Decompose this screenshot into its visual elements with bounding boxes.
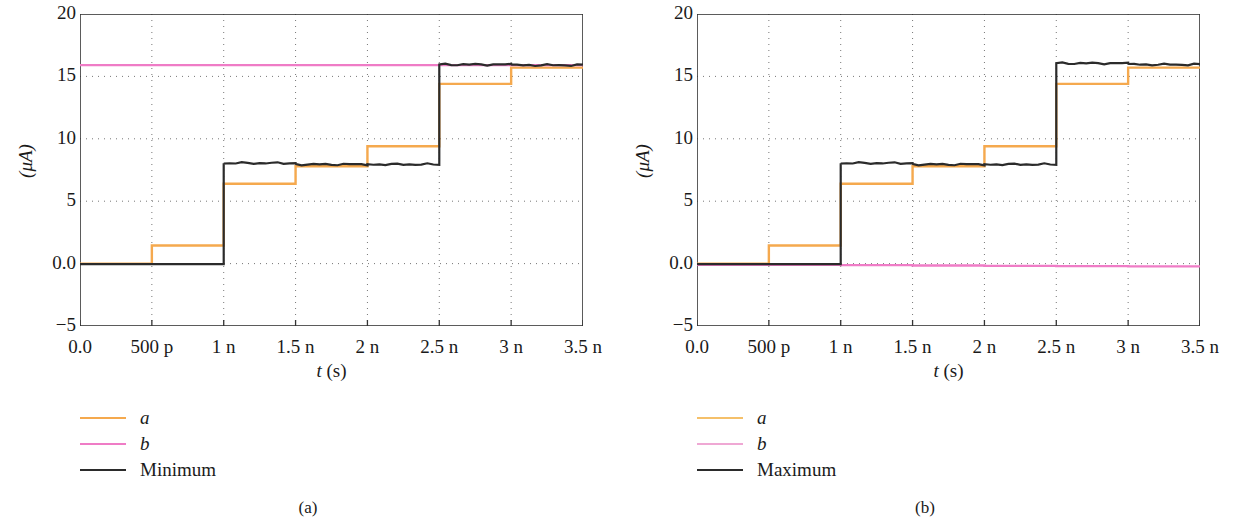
x-axis-label-var-b: t	[933, 360, 938, 381]
x-tick-label: 3.5 n	[564, 336, 602, 358]
panel-a: (μA) 20151050.0−5 0.0500 p1 n1.5 n2 n2.5…	[0, 0, 616, 529]
plot-svg-a	[80, 14, 583, 326]
y-axis-ticks-b: 20151050.0−5	[637, 0, 693, 340]
series-line-minimum	[80, 64, 583, 265]
legend-swatch-icon	[80, 443, 126, 445]
x-axis-ticks-a: 0.0500 p1 n1.5 n2 n2.5 n3 n3.5 n	[0, 330, 616, 360]
x-tick-label: 1.5 n	[277, 336, 315, 358]
legend-a: abMinimum	[80, 405, 480, 483]
x-tick-label: 2 n	[973, 336, 997, 358]
y-tick-label: 20	[28, 3, 76, 22]
x-axis-label-unit-b: (s)	[943, 360, 963, 381]
x-tick-label: 1 n	[829, 336, 853, 358]
legend-item[interactable]: Minimum	[80, 457, 480, 483]
x-tick-label: 2.5 n	[420, 336, 458, 358]
caption-a: (a)	[0, 498, 616, 518]
x-tick-label: 3.5 n	[1181, 336, 1219, 358]
legend-label: Maximum	[757, 459, 836, 481]
legend-swatch-icon	[697, 443, 743, 445]
plot-frame	[80, 14, 583, 326]
plot-svg-b	[697, 14, 1200, 326]
legend-item[interactable]: b	[697, 431, 1097, 457]
y-tick-label: 10	[28, 128, 76, 147]
legend-label: a	[757, 407, 767, 429]
x-tick-label: 2.5 n	[1037, 336, 1075, 358]
legend-label: Minimum	[140, 459, 216, 481]
legend-label: a	[140, 407, 150, 429]
legend-item[interactable]: a	[697, 405, 1097, 431]
y-tick-label: 10	[645, 128, 693, 147]
x-axis-label-b: t (s)	[697, 360, 1200, 382]
panel-b: (μA) 20151050.0−5 0.0500 p1 n1.5 n2 n2.5…	[617, 0, 1233, 529]
legend-swatch-icon	[697, 417, 743, 419]
x-tick-label: 0.0	[68, 336, 92, 358]
legend-swatch-icon	[80, 469, 126, 471]
figure-two-panel-chart: (μA) 20151050.0−5 0.0500 p1 n1.5 n2 n2.5…	[0, 0, 1233, 529]
x-tick-label: 1 n	[212, 336, 236, 358]
series-line-maximum	[697, 62, 1200, 264]
caption-b: (b)	[617, 498, 1233, 518]
x-tick-label: 0.0	[685, 336, 709, 358]
x-axis-ticks-b: 0.0500 p1 n1.5 n2 n2.5 n3 n3.5 n	[617, 330, 1233, 360]
legend-item[interactable]: a	[80, 405, 480, 431]
legend-swatch-icon	[80, 417, 126, 419]
y-tick-label: 15	[645, 65, 693, 84]
legend-swatch-icon	[697, 469, 743, 471]
y-axis-ticks-a: 20151050.0−5	[20, 0, 76, 340]
y-tick-label: 5	[645, 190, 693, 209]
y-tick-label: 0.0	[28, 253, 76, 272]
x-axis-label-a: t (s)	[80, 360, 583, 382]
x-tick-label: 500 p	[130, 336, 173, 358]
x-axis-label-var-a: t	[316, 360, 321, 381]
plot-area-a	[80, 14, 583, 326]
x-axis-label-unit-a: (s)	[326, 360, 346, 381]
x-tick-label: 3 n	[499, 336, 523, 358]
plot-area-b	[697, 14, 1200, 326]
y-tick-label: 20	[645, 3, 693, 22]
x-tick-label: 2 n	[356, 336, 380, 358]
y-tick-label: 15	[28, 65, 76, 84]
legend-item[interactable]: Maximum	[697, 457, 1097, 483]
x-tick-label: 500 p	[747, 336, 790, 358]
x-tick-label: 3 n	[1116, 336, 1140, 358]
y-tick-label: 5	[28, 190, 76, 209]
x-tick-label: 1.5 n	[894, 336, 932, 358]
plot-frame	[697, 14, 1200, 326]
legend-item[interactable]: b	[80, 431, 480, 457]
y-tick-label: 0.0	[645, 253, 693, 272]
legend-label: b	[757, 433, 767, 455]
legend-b: abMaximum	[697, 405, 1097, 483]
legend-label: b	[140, 433, 150, 455]
